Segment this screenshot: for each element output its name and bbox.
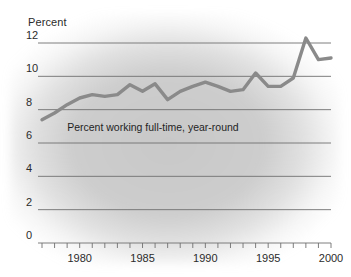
- x-tick-label: 1980: [67, 252, 91, 264]
- x-tick-label: 2000: [319, 252, 343, 264]
- y-tick-label: 4: [26, 162, 32, 174]
- y-tick-label: 6: [26, 129, 32, 141]
- x-tick-label: 1985: [130, 252, 154, 264]
- y-tick-label: 12: [26, 29, 38, 41]
- minor-ticks-group: [42, 243, 331, 248]
- x-tick-label: 1995: [256, 252, 280, 264]
- y-tick-label: 8: [26, 96, 32, 108]
- y-tick-label: 10: [26, 62, 38, 74]
- data-line: [42, 38, 331, 120]
- series-group: [42, 38, 331, 120]
- series-annotation: Percent working full-time, year-round: [67, 121, 239, 133]
- y-tick-label: 2: [26, 196, 32, 208]
- y-tick-label: 0: [26, 229, 32, 241]
- gridlines-group: [38, 43, 331, 243]
- x-tick-label: 1990: [193, 252, 217, 264]
- chart-figure: Percent 024681012 19801985199019952000 P…: [0, 0, 351, 277]
- plot-area: [0, 0, 351, 277]
